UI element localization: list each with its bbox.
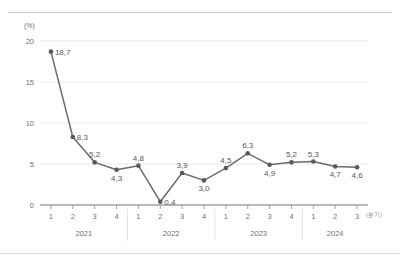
x-tick-label: 3	[268, 212, 272, 221]
x-tick-label: 1	[49, 212, 53, 221]
data-value-label: 5,3	[308, 150, 320, 159]
data-value-label: 3,9	[177, 161, 189, 170]
data-point-marker	[224, 166, 229, 171]
year-group-label: 2022	[163, 229, 180, 238]
chart-canvas: (%) (분기) 05101520 123412341234123 202120…	[0, 0, 400, 263]
y-tick-label: 15	[26, 78, 34, 87]
data-value-label: 6,3	[242, 141, 254, 150]
y-tick-label-group: 05101520	[26, 37, 34, 210]
data-point-marker	[311, 159, 316, 164]
y-tick-label: 5	[30, 160, 34, 169]
data-value-label: 4,5	[220, 156, 232, 165]
y-tick-label: 10	[26, 119, 34, 128]
x-tick-label: 3	[355, 212, 359, 221]
data-point-marker	[289, 160, 294, 165]
data-point-marker	[92, 160, 97, 165]
data-label-group: 18,78,35,24,34,80,43,93,04,56,34,95,25,3…	[55, 48, 363, 207]
y-tick-label: 20	[26, 37, 34, 46]
data-point-marker	[158, 199, 163, 204]
line-chart-plot: 05101520 123412341234123 202120222023202…	[0, 0, 400, 263]
x-tick-label: 1	[224, 212, 228, 221]
data-point-marker	[136, 163, 141, 168]
data-point-marker	[49, 49, 54, 54]
x-tick-label: 2	[246, 212, 250, 221]
data-value-label: 18,7	[55, 48, 71, 57]
data-point-marker	[180, 171, 185, 176]
data-value-label: 8,3	[77, 133, 89, 142]
data-value-label: 5,2	[89, 150, 101, 159]
x-tick-label: 1	[311, 212, 315, 221]
data-value-label: 4,3	[111, 174, 123, 183]
data-value-label: 0,4	[164, 198, 176, 207]
data-value-label: 4,7	[330, 170, 342, 179]
x-axis-group	[40, 205, 368, 209]
x-tick-label: 2	[158, 212, 162, 221]
data-point-marker	[202, 178, 207, 183]
data-point-marker	[355, 165, 360, 170]
x-tick-label: 4	[202, 212, 206, 221]
data-point-group	[49, 49, 360, 204]
x-tick-label: 4	[289, 212, 293, 221]
year-group-label: 2023	[250, 229, 267, 238]
year-group-label: 2024	[327, 229, 344, 238]
x-tick-label-group: 123412341234123	[49, 212, 359, 221]
data-value-label: 4,8	[133, 154, 145, 163]
x-tick-label: 4	[114, 212, 118, 221]
data-value-label: 4,6	[352, 171, 364, 180]
x-tick-label: 3	[180, 212, 184, 221]
data-point-marker	[71, 135, 76, 140]
data-value-label: 3,0	[198, 184, 210, 193]
x-tick-label: 3	[93, 212, 97, 221]
data-point-marker	[267, 163, 272, 168]
year-group-label: 2021	[75, 229, 92, 238]
data-value-label: 5,2	[286, 150, 298, 159]
x-tick-label: 1	[136, 212, 140, 221]
data-point-marker	[333, 164, 338, 169]
data-point-marker	[114, 167, 119, 172]
x-tick-label: 2	[333, 212, 337, 221]
x-tick-label: 2	[71, 212, 75, 221]
data-value-label: 4,9	[264, 169, 276, 178]
y-tick-label: 0	[30, 201, 34, 210]
data-point-marker	[245, 151, 250, 156]
